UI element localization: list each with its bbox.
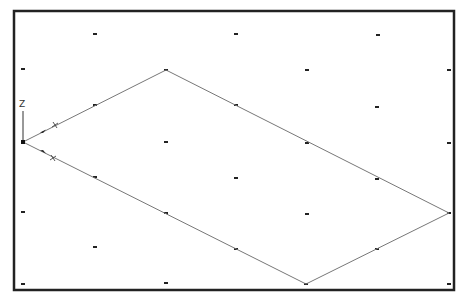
grid-dot: [234, 33, 238, 35]
grid-dot: [376, 34, 380, 36]
grid-dot: [305, 69, 309, 71]
x-axis-marker-icon: [40, 122, 58, 133]
grid-dot: [164, 141, 168, 143]
isometric-drawing-canvas[interactable]: Z: [0, 0, 462, 299]
grid-dot: [234, 177, 238, 179]
grid-dot: [93, 33, 97, 35]
z-axis-label: Z: [19, 99, 25, 109]
isometric-dot-grid: [21, 33, 451, 285]
ucs-axis-icon: Z: [19, 99, 58, 161]
axis-arrowhead-icon: [40, 150, 46, 154]
grid-dot: [93, 246, 97, 248]
grid-dot: [21, 211, 25, 213]
grid-dot: [21, 68, 25, 70]
grid-dot: [375, 178, 379, 180]
grid-dot: [447, 283, 451, 285]
grid-dot: [305, 213, 309, 215]
grid-dot: [375, 106, 379, 108]
grid-dot: [21, 283, 25, 285]
y-axis-marker-icon: [40, 150, 56, 161]
ucs-origin-marker: [21, 140, 25, 144]
grid-dot: [164, 282, 168, 284]
grid-dot: [447, 142, 451, 144]
grid-dot: [447, 69, 451, 71]
